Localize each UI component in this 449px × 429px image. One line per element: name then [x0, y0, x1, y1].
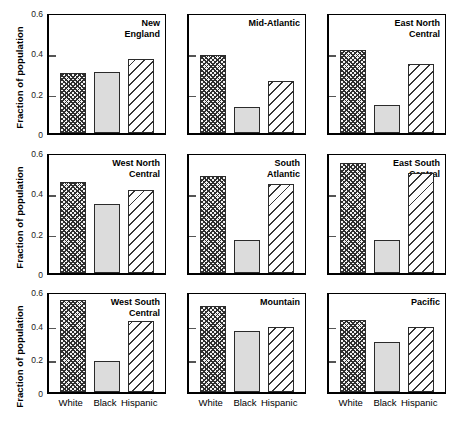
x-axis-labels: WhiteBlackHispanic: [327, 394, 446, 412]
plot-area: West North Central: [47, 154, 166, 275]
bar-black: [374, 342, 400, 393]
bar-white: [200, 55, 226, 133]
bar-black: [234, 240, 260, 273]
y-tick-label: 0.6: [31, 150, 43, 159]
bar-black: [94, 72, 120, 134]
panel-new-england: 00.20.40.6New England: [23, 14, 166, 135]
y-tick-label: 0.6: [31, 289, 43, 298]
bar-group: [329, 155, 445, 273]
bar-black: [234, 331, 260, 392]
panel-west-north-central: 00.20.40.6West North Central: [23, 154, 166, 275]
x-tick-label-black: Black: [373, 397, 396, 408]
panel-pacific: PacificWhiteBlackHispanic: [303, 293, 446, 394]
y-tick-label: 0.2: [31, 230, 43, 239]
panel-grid: 00.20.40.6New EnglandMid-AtlanticEast No…: [0, 0, 449, 429]
panel-west-south-central: 00.20.40.6West South CentralWhiteBlackHi…: [23, 293, 166, 394]
bar-black: [94, 361, 120, 392]
x-tick-label-white: White: [339, 397, 363, 408]
bar-hispanic: [268, 184, 294, 273]
y-tick-label: 0: [38, 271, 43, 280]
x-tick-label-hispanic: Hispanic: [401, 397, 437, 408]
y-tick-label: 0: [38, 131, 43, 140]
bar-white: [340, 50, 366, 133]
bar-hispanic: [128, 59, 154, 133]
y-axis-ticks: 00.20.40.6: [23, 154, 45, 275]
bar-white: [60, 73, 86, 134]
y-tick-label: 0.2: [31, 90, 43, 99]
bar-group: [49, 155, 165, 273]
x-axis-labels: WhiteBlackHispanic: [187, 394, 306, 412]
bar-black: [94, 204, 120, 273]
bar-group: [49, 15, 165, 133]
y-tick-label: 0.2: [31, 356, 43, 365]
bar-hispanic: [268, 327, 294, 392]
bar-white: [60, 182, 86, 273]
plot-area: East South Central: [327, 154, 446, 275]
y-axis-ticks: 00.20.40.6: [23, 293, 45, 394]
bar-hispanic: [128, 321, 154, 392]
bar-white: [200, 176, 226, 273]
plot-area: West South Central: [47, 293, 166, 394]
bar-group: [189, 15, 305, 133]
x-tick-label-black: Black: [233, 397, 256, 408]
x-tick-label-black: Black: [93, 397, 116, 408]
bar-black: [374, 105, 400, 133]
y-tick-label: 0.4: [31, 322, 43, 331]
x-tick-label-white: White: [199, 397, 223, 408]
panel-east-south-central: East South Central: [303, 154, 446, 275]
bar-white: [340, 163, 366, 273]
bar-hispanic: [408, 173, 434, 273]
plot-area: Mid-Atlantic: [187, 14, 306, 135]
y-tick-label: 0.6: [31, 10, 43, 19]
bar-hispanic: [268, 81, 294, 133]
bar-white: [200, 306, 226, 392]
bar-group: [189, 155, 305, 273]
x-tick-label-hispanic: Hispanic: [261, 397, 297, 408]
multi-panel-bar-chart: Fraction of population Fraction of popul…: [0, 0, 449, 429]
plot-area: New England: [47, 14, 166, 135]
y-tick-label: 0: [38, 390, 43, 399]
x-tick-label-hispanic: Hispanic: [121, 397, 157, 408]
bar-hispanic: [128, 190, 154, 273]
bar-hispanic: [408, 64, 434, 133]
panel-mid-atlantic: Mid-Atlantic: [163, 14, 306, 135]
y-tick-label: 0.4: [31, 190, 43, 199]
y-tick-label: 0.4: [31, 50, 43, 59]
bar-black: [234, 107, 260, 133]
panel-east-north-central: East North Central: [303, 14, 446, 135]
bar-white: [340, 320, 366, 392]
bar-group: [329, 15, 445, 133]
bar-group: [189, 294, 305, 392]
panel-mountain: MountainWhiteBlackHispanic: [163, 293, 306, 394]
panel-south-atlantic: South Atlantic: [163, 154, 306, 275]
bar-black: [374, 240, 400, 273]
x-axis-labels: WhiteBlackHispanic: [47, 394, 166, 412]
bar-group: [49, 294, 165, 392]
plot-area: Mountain: [187, 293, 306, 394]
x-tick-label-white: White: [59, 397, 83, 408]
plot-area: South Atlantic: [187, 154, 306, 275]
bar-group: [329, 294, 445, 392]
plot-area: East North Central: [327, 14, 446, 135]
plot-area: Pacific: [327, 293, 446, 394]
y-axis-ticks: 00.20.40.6: [23, 14, 45, 135]
bar-hispanic: [408, 327, 434, 392]
bar-white: [60, 300, 86, 392]
